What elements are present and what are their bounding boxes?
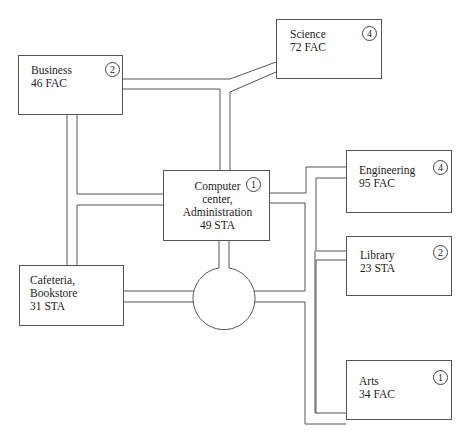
node-arts-label: Arts 34 FAC <box>359 375 395 401</box>
priority-badge: 4 <box>362 26 377 41</box>
node-engineering[interactable]: Engineering 95 FAC 4 <box>346 150 452 213</box>
priority-badge: 2 <box>105 62 120 77</box>
node-science-label: Science 72 FAC <box>290 28 326 54</box>
priority-badge: 1 <box>433 370 448 385</box>
priority-badge: 1 <box>246 177 261 192</box>
node-science[interactable]: Science 72 FAC 4 <box>276 19 382 79</box>
priority-badge: 4 <box>433 160 448 175</box>
node-library-label: Library 23 STA <box>360 249 395 275</box>
node-library[interactable]: Library 23 STA 2 <box>346 236 452 296</box>
priority-badge: 2 <box>433 245 448 260</box>
node-engineering-label: Engineering 95 FAC <box>359 164 415 190</box>
campus-diagram: Business 46 FAC 2 Science 72 FAC 4 Compu… <box>0 0 472 438</box>
node-cafeteria-label: Cafeteria, Bookstore 31 STA <box>30 274 77 313</box>
node-computer-center[interactable]: Computer center, Administration 49 STA 1 <box>163 170 270 241</box>
edge-computer-library <box>269 203 305 291</box>
node-cafeteria[interactable]: Cafeteria, Bookstore 31 STA <box>19 265 124 326</box>
edge-business-science <box>122 62 276 79</box>
node-business[interactable]: Business 46 FAC 2 <box>18 55 123 115</box>
node-business-label: Business 46 FAC <box>31 64 72 90</box>
hub-circle <box>193 268 255 330</box>
edge-computer-engineering <box>269 167 346 193</box>
node-arts[interactable]: Arts 34 FAC 1 <box>346 360 452 420</box>
